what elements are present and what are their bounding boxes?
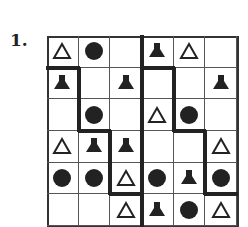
- grid-cell[interactable]: [79, 36, 111, 68]
- triangle-icon: [52, 42, 72, 60]
- triangle-icon: [179, 42, 199, 60]
- grid-cell[interactable]: [205, 194, 237, 226]
- grid-cell[interactable]: [174, 99, 206, 131]
- triangle-icon: [211, 201, 231, 219]
- grid-cell[interactable]: [47, 163, 79, 195]
- circle-icon: [84, 168, 104, 188]
- region-border: [141, 66, 175, 70]
- circle-icon: [179, 200, 199, 220]
- grid-cell[interactable]: [142, 131, 174, 163]
- circle-icon: [52, 168, 72, 188]
- grid-cell[interactable]: [142, 99, 174, 131]
- circle-icon: [147, 168, 167, 188]
- grid-cell[interactable]: [79, 163, 111, 195]
- grid-cell[interactable]: [47, 68, 79, 100]
- grid-cell[interactable]: [174, 194, 206, 226]
- circle-icon: [84, 105, 104, 125]
- grid-cell[interactable]: [110, 163, 142, 195]
- triangle-icon: [211, 137, 231, 155]
- grid-cell[interactable]: [110, 36, 142, 68]
- triangle-icon: [116, 169, 136, 187]
- circle-icon: [211, 168, 231, 188]
- grid-cell[interactable]: [174, 131, 206, 163]
- grid-cell[interactable]: [142, 163, 174, 195]
- grid-cell[interactable]: [174, 68, 206, 100]
- grid-cell[interactable]: [205, 131, 237, 163]
- grid-cell[interactable]: [47, 131, 79, 163]
- region-border: [203, 130, 207, 195]
- bell-icon: [179, 169, 199, 187]
- grid-cell[interactable]: [79, 131, 111, 163]
- bell-icon: [147, 42, 167, 60]
- grid-cell[interactable]: [142, 194, 174, 226]
- region-border: [204, 192, 238, 196]
- circle-icon: [179, 105, 199, 125]
- region-border: [173, 129, 207, 133]
- grid-cell[interactable]: [205, 68, 237, 100]
- grid-cell[interactable]: [205, 99, 237, 131]
- grid-cell[interactable]: [110, 68, 142, 100]
- grid-cell[interactable]: [142, 68, 174, 100]
- region-border: [172, 67, 176, 132]
- region-border: [77, 67, 81, 132]
- bell-icon: [84, 137, 104, 155]
- grid-cell[interactable]: [79, 68, 111, 100]
- bell-icon: [116, 137, 136, 155]
- grid-cell[interactable]: [79, 194, 111, 226]
- region-border: [78, 129, 112, 133]
- puzzle-grid: [47, 36, 239, 227]
- grid-cell[interactable]: [205, 36, 237, 68]
- grid-cell[interactable]: [47, 99, 79, 131]
- circle-icon: [84, 41, 104, 61]
- grid-cell[interactable]: [205, 163, 237, 195]
- triangle-icon: [52, 137, 72, 155]
- grid-cell[interactable]: [110, 194, 142, 226]
- grid-cell[interactable]: [79, 99, 111, 131]
- region-border: [108, 130, 112, 195]
- triangle-icon: [116, 201, 136, 219]
- region-border: [46, 66, 80, 70]
- puzzle-number: 1.: [10, 30, 28, 50]
- grid-cell[interactable]: [47, 194, 79, 226]
- grid-cell[interactable]: [110, 131, 142, 163]
- region-border: [109, 192, 143, 196]
- bell-icon: [52, 74, 72, 92]
- triangle-icon: [147, 106, 167, 124]
- bell-icon: [211, 74, 231, 92]
- grid-cell[interactable]: [142, 36, 174, 68]
- grid-cell[interactable]: [47, 36, 79, 68]
- bell-icon: [116, 74, 136, 92]
- region-border: [140, 35, 144, 227]
- bell-icon: [147, 201, 167, 219]
- grid-cell[interactable]: [110, 99, 142, 131]
- grid-cell[interactable]: [174, 36, 206, 68]
- grid-cell[interactable]: [174, 163, 206, 195]
